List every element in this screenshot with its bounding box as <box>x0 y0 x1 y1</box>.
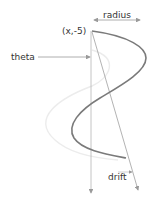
origin-label: (x,-5) <box>62 27 86 36</box>
theta-label: theta <box>11 53 35 62</box>
drift-label: drift <box>108 173 126 182</box>
ghost-helix-curve <box>46 50 118 160</box>
helix-curve <box>72 31 146 158</box>
radius-label: radius <box>103 11 131 20</box>
drift-axis-arrow <box>92 32 138 190</box>
